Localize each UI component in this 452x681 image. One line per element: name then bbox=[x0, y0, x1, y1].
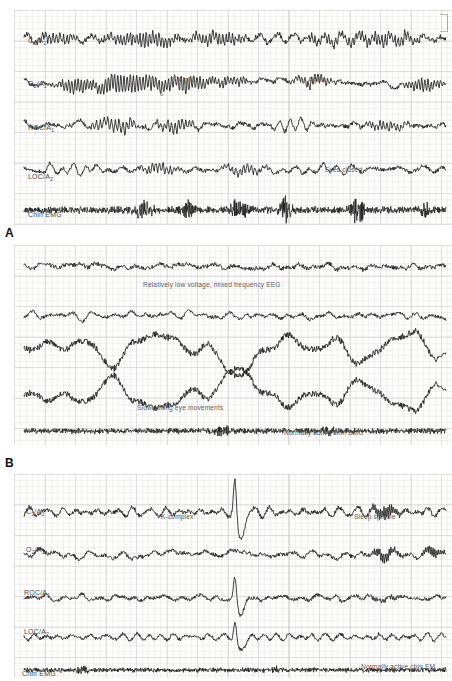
calibration-mark-icon bbox=[440, 14, 448, 32]
annotation-k-complex: K-complex bbox=[161, 513, 194, 520]
panel-b-traces bbox=[14, 245, 452, 445]
channel-label-c3a2-panel-a: C3/A2 bbox=[28, 37, 46, 44]
channel-label-c3a2-panel-c: C3/A2 bbox=[26, 508, 44, 515]
annotation-alpha-marker: o bbox=[160, 91, 163, 97]
panel-a-wake bbox=[14, 10, 452, 225]
panel-a-traces bbox=[14, 10, 452, 225]
annotation-slow-rolling-eye-movements: Slow-rolling eye movements bbox=[137, 404, 223, 411]
polysomnography-figure: C3/A2 O2/A1 ROC/A1 LOC/A2 Chin EMG Alpha… bbox=[0, 0, 452, 681]
annotation-chin-emg-panel-b: Normally active chin EMG bbox=[284, 429, 363, 436]
annotation-alpha-second: Alpha bbox=[308, 76, 326, 83]
annotation-sleep-spindle: Sleep spindle bbox=[354, 513, 396, 520]
panel-c-stage2 bbox=[14, 474, 452, 678]
panel-letter-a: A bbox=[5, 226, 14, 240]
channel-label-chin-emg-panel-a: Chin EMG bbox=[28, 211, 62, 218]
channel-label-chin-emg-panel-c: Chin EMG bbox=[22, 670, 56, 677]
panel-letter-b: B bbox=[5, 456, 14, 470]
annotation-low-voltage-eeg: Relatively low voltage, mixed frequency … bbox=[143, 281, 281, 288]
annotation-alpha-first: Alpha bbox=[178, 76, 196, 83]
panel-b-stage1 bbox=[14, 245, 452, 445]
annotation-chin-emg-panel-c: Normally active chin EM bbox=[361, 663, 435, 670]
channel-label-roc-panel-a: ROC/A1 bbox=[28, 124, 54, 131]
channel-label-o2a1-panel-a: O2/A1 bbox=[28, 80, 47, 87]
channel-label-loc-panel-c: LOC/A2 bbox=[24, 628, 49, 635]
channel-label-loc-panel-a: LOC/A2 bbox=[28, 173, 53, 180]
channel-label-o2a1-panel-c: O2/A1 bbox=[26, 546, 45, 553]
panel-c-traces bbox=[14, 474, 452, 678]
channel-label-roc-panel-c: ROC/A1 bbox=[24, 589, 50, 596]
annotation-eyes-closed: Eyes closed bbox=[325, 166, 362, 173]
